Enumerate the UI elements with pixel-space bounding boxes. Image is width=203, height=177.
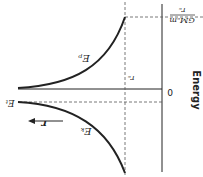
energy-diagram: Energy 0 GMₑm rₑ rₑ Eₚ Eₖ Eₜ r: [0, 0, 203, 177]
ep-curve: [18, 17, 125, 88]
re-label: rₑ: [128, 74, 135, 83]
r-arrow-head: [28, 118, 35, 124]
ek-curve: [18, 102, 125, 173]
gm-label: GMₑm: [169, 16, 195, 25]
re-denominator: rₑ: [179, 6, 186, 15]
ek-label: Eₖ: [80, 126, 92, 137]
energy-axis-label: Energy: [191, 70, 202, 110]
zero-label: 0: [167, 87, 173, 97]
ep-label: Eₚ: [78, 53, 90, 64]
r-label: r: [41, 119, 47, 130]
et-label: Eₜ: [5, 98, 16, 108]
diagram-svg: Energy 0 GMₑm rₑ rₑ Eₚ Eₖ Eₜ r: [0, 0, 203, 177]
